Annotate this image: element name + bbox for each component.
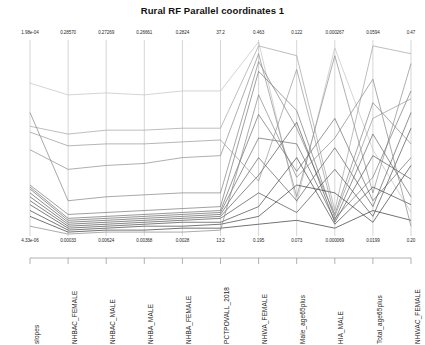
axis-min-label-1: 0.00033 <box>60 238 76 243</box>
axis-max-label-0: 1.98e-04 <box>21 30 38 35</box>
axis-name-pctpovall_2018: PCTPOVALL_2018 <box>223 287 230 344</box>
axis-name-slopes: slopes <box>33 325 40 344</box>
axis-name-nhbac_female: NHBAC_FEMALE <box>71 291 78 344</box>
axis-name-nhwac_female: NHWAC_FEMALE <box>414 289 421 344</box>
axis-min-label-9: 0.0199 <box>366 238 379 243</box>
axis-max-label-5: 37.2 <box>216 30 225 35</box>
axis-max-label-4: 0.2824 <box>176 30 189 35</box>
axis-max-label-6: 0.463 <box>253 30 264 35</box>
axis-min-label-8: 0.000069 <box>326 238 344 243</box>
axis-max-label-1: 0.28570 <box>60 30 76 35</box>
axis-min-label-0: 4.33e-06 <box>21 238 38 243</box>
axis-name-nhbac_male: NHBAC_MALE <box>109 299 116 344</box>
chart-root: Rural RF Parallel coordinates 1 1.98e-04… <box>0 0 425 345</box>
axis-tick-marks <box>30 258 411 264</box>
axis-min-label-5: 13.2 <box>216 238 225 243</box>
axis-min-label-3: 0.00368 <box>136 238 152 243</box>
axis-min-label-2: 0.00624 <box>98 238 114 243</box>
axis-min-label-6: 0.195 <box>253 238 264 243</box>
axis-name-total_age65plus: Total_age65plus <box>376 295 383 344</box>
axis-max-label-9: 0.0594 <box>366 30 379 35</box>
axis-min-label-10: 0.20 <box>407 238 416 243</box>
axis-min-label-7: 0.073 <box>291 238 302 243</box>
parallel-coordinates-plot <box>0 0 425 345</box>
axis-max-label-8: 0.000267 <box>326 30 344 35</box>
axis-name-nhwa_female: NHWA_FEMALE <box>261 294 268 344</box>
axis-name-hia_male: HIA_MALE <box>337 311 344 344</box>
axis-max-label-3: 0.26661 <box>136 30 152 35</box>
axis-max-label-2: 0.27269 <box>98 30 114 35</box>
axis-max-label-10: 0.47 <box>407 30 416 35</box>
axis-name-nhba_female: NHBA_FEMALE <box>185 295 192 344</box>
axis-min-label-4: 0.0028 <box>176 238 189 243</box>
axis-max-label-7: 0.122 <box>291 30 302 35</box>
axis-name-male_age65plus: Male_age65plus <box>299 295 306 344</box>
axis-name-nhba_male: NHBA_MALE <box>147 304 154 344</box>
